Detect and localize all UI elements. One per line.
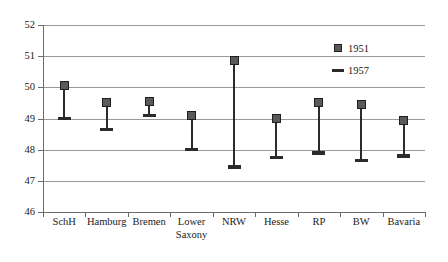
x-axis-category-label: LowerSaxony [170,216,212,241]
data-marker-1957 [185,148,198,152]
x-axis-category-label-line: Bremen [128,216,170,229]
x-axis-category-label: BW [340,216,382,229]
x-axis-tick-mark [255,212,256,217]
data-marker-1951 [272,114,281,123]
legend-item[interactable]: 1951 [329,37,415,59]
range-connector [275,119,277,158]
range-connector [191,115,193,149]
legend-label: 1951 [346,42,369,55]
range-connector [233,61,235,167]
y-axis-tick-label: 46 [5,207,35,217]
x-axis-category-label: Hamburg [85,216,127,229]
data-marker-1951 [145,97,154,106]
y-axis-tick-label: 50 [5,82,35,92]
x-axis-tick-mark [383,212,384,217]
y-axis-tick-label: 52 [5,20,35,30]
data-marker-1951 [230,56,239,65]
chart-container: 52515049484746 SchHHamburgBremenLowerSax… [0,0,448,262]
data-marker-1957 [270,156,283,160]
x-axis-tick-mark [213,212,214,217]
y-axis-tick-labels: 52515049484746 [0,25,38,212]
y-axis-tick-label: 47 [5,176,35,186]
y-axis-tick-label: 48 [5,145,35,155]
range-connector [360,104,362,160]
legend-swatch [329,44,346,52]
y-axis-line [43,25,44,212]
data-marker-1957 [143,114,156,118]
data-marker-1957 [58,117,71,121]
data-marker-1951 [357,100,366,109]
x-axis-category-label-line: Lower [170,216,212,229]
x-axis-category-label: Bavaria [383,216,425,229]
square-marker-icon [334,44,342,52]
x-axis-tick-mark [128,212,129,217]
y-axis-tick-mark [38,56,43,57]
data-marker-1957 [100,128,113,132]
range-connector [403,120,405,156]
data-marker-1957 [355,159,368,163]
x-axis-category-label: NRW [213,216,255,229]
legend-item[interactable]: 1957 [329,59,415,81]
x-axis-category-labels: SchHHamburgBremenLowerSaxonyNRWHesseRPBW… [43,216,425,260]
gridline [43,212,425,213]
x-axis-tick-mark [298,212,299,217]
data-marker-1951 [399,116,408,125]
x-axis-tick-mark [170,212,171,217]
x-axis-category-label-line: SchH [43,216,85,229]
x-axis-start-tick [43,212,44,217]
x-axis-category-label: RP [298,216,340,229]
legend-swatch [329,69,346,72]
gridline [43,181,425,182]
x-axis-category-label-line: Bavaria [383,216,425,229]
y-axis-tick-mark [38,87,43,88]
gridline [43,25,425,26]
range-connector [63,86,65,119]
x-axis-category-label: Bremen [128,216,170,229]
data-marker-1957 [228,165,241,169]
data-marker-1951 [314,98,323,107]
x-axis-tick-mark [340,212,341,217]
x-axis-category-label-line: RP [298,216,340,229]
x-axis-category-label-line: Hesse [255,216,297,229]
x-axis-category-label-line: Saxony [170,229,212,242]
data-marker-1957 [397,154,410,158]
x-axis-end-tick [425,212,426,217]
data-marker-1951 [187,111,196,120]
legend-label: 1957 [346,64,369,77]
y-axis-tick-mark [38,25,43,26]
range-connector [318,103,320,153]
x-axis-category-label-line: BW [340,216,382,229]
y-axis-tick-mark [38,119,43,120]
y-axis-tick-mark [38,150,43,151]
dash-marker-icon [332,69,344,72]
x-axis-tick-mark [85,212,86,217]
chart-legend: 19511957 [329,37,415,81]
x-axis-category-label: Hesse [255,216,297,229]
y-axis-tick-mark [38,181,43,182]
y-axis-tick-label: 51 [5,51,35,61]
data-marker-1951 [60,81,69,90]
data-marker-1957 [312,151,325,155]
y-axis-tick-label: 49 [5,114,35,124]
x-axis-category-label-line: NRW [213,216,255,229]
data-marker-1951 [102,98,111,107]
x-axis-category-label: SchH [43,216,85,229]
x-axis-category-label-line: Hamburg [85,216,127,229]
